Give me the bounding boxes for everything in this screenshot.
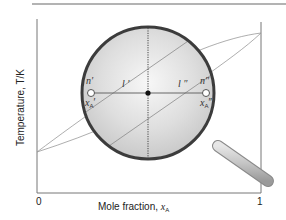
left-length-label: l ′ [122,78,129,89]
x-tick-0: 0 [36,196,42,207]
left-phase-label: n′ [86,75,93,86]
x-axis-label: Mole fraction, xA [98,201,169,213]
left-composition-label: xA′ [85,97,95,109]
right-length-label: l ″ [178,78,187,89]
phase-diagram-figure [0,0,286,220]
magnifier-lens [60,5,240,180]
right-phase-label: n″ [200,75,209,86]
x-tick-1: 1 [257,196,263,207]
left-comp-prime: ′ [93,97,95,108]
x-axis-label-text: Mole fraction, [98,201,161,212]
y-axis-label: Temperature, T/K [15,58,26,158]
x-axis-label-sub: A [165,207,169,213]
right-composition-label: xA″ [200,97,212,109]
right-comp-prime: ″ [208,97,212,108]
left-phase-point [88,90,95,97]
right-phase-point [203,90,210,97]
overall-composition-point [145,90,150,95]
